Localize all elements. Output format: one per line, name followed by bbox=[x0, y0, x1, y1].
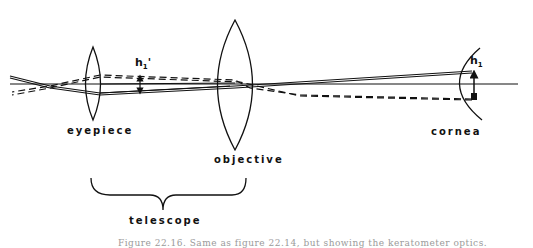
object-base-marker bbox=[471, 93, 477, 100]
figure-caption: Figure 22.16. Same as figure 22.14, but … bbox=[118, 238, 487, 248]
cornea-label: cornea bbox=[431, 126, 481, 137]
telescope-brace bbox=[91, 178, 246, 210]
image-height-label: h1' bbox=[135, 56, 151, 71]
object-height-label: h1 bbox=[470, 54, 483, 69]
objective-label: objective bbox=[214, 154, 284, 165]
eyepiece-label: eyepiece bbox=[67, 125, 133, 136]
telescope-label: telescope bbox=[129, 215, 201, 226]
